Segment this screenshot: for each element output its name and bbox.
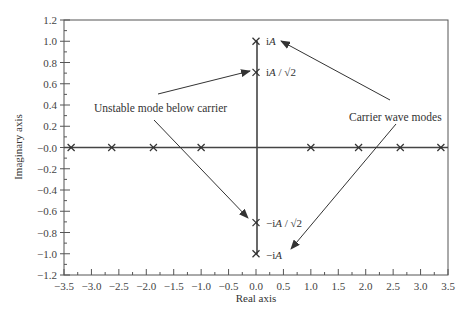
x-axis-ticks: −3.5−3.0−2.5−2.0−1.5−1.0−0.50.00.51.01.5… [54,269,455,292]
x-axis-label: Real axis [236,292,277,304]
annotation-carrier-modes: Carrier wave modes [349,111,442,123]
x-marker [253,250,260,257]
label-iA: iA [266,35,276,47]
x-marker [253,38,260,45]
x-marker [253,69,260,76]
x-tick-label: 2.0 [359,280,373,292]
arrow-carrier-down [291,124,396,249]
x-tick-label: −0.5 [219,280,239,292]
x-tick-label: −2.5 [109,280,129,292]
arrow-carrier-up [281,41,390,100]
x-tick-label: −1.0 [191,280,211,292]
y-tick-label: −0.8 [37,227,57,239]
x-tick-label: 1.5 [331,280,345,292]
y-axis-label: Imaginary axis [12,114,24,180]
x-tick-label: 1.0 [304,280,318,292]
label-iA-sqrt2: iA / √2 [266,66,296,78]
y-tick-label: −0.0 [37,142,57,154]
arrow-unstable-down [154,120,248,218]
arrow-unstable-up [158,71,250,94]
x-tick-label: −1.5 [164,280,184,292]
y-tick-label: 1.2 [43,14,57,26]
y-tick-label: −0.4 [37,184,57,196]
y-tick-label: −0.6 [37,205,57,217]
x-tick-label: 0.5 [277,280,291,292]
label-neg-iA-sqrt2: −iA / √2 [266,217,302,229]
y-tick-label: 0.4 [43,99,57,111]
label-neg-iA: −iA [266,249,282,261]
x-tick-label: −3.0 [81,280,101,292]
y-tick-label: 0.6 [43,78,57,90]
x-tick-label: −2.0 [136,280,156,292]
x-tick-label: −3.5 [54,280,74,292]
x-tick-label: 3.0 [414,280,428,292]
y-tick-label: 0.8 [43,57,57,69]
y-tick-label: 0.2 [43,120,57,132]
root-locus-chart: 1.21.00.80.60.40.2−0.0−0.2−0.4−0.6−0.8−1… [0,0,469,324]
x-marker [253,219,260,226]
x-tick-label: 2.5 [386,280,400,292]
x-tick-label: 3.5 [441,280,455,292]
y-tick-label: 1.0 [43,35,57,47]
y-tick-label: −1.0 [37,248,57,260]
y-tick-label: −0.2 [37,163,57,175]
x-tick-label: 0.0 [249,280,263,292]
annotation-unstable-mode: Unstable mode below carrier [94,102,227,114]
